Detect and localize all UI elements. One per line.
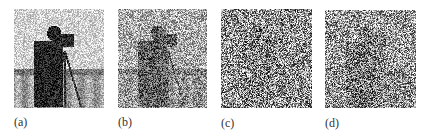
noisy-image-b <box>118 9 207 108</box>
noisy-image-a <box>14 9 104 108</box>
noisy-image-d <box>325 10 416 108</box>
panel-label-a: (a) <box>14 115 27 130</box>
panel-label-d: (d) <box>325 116 339 131</box>
noisy-image-c <box>221 9 312 108</box>
panel-label-c: (c) <box>221 116 234 131</box>
panel-label-b: (b) <box>118 115 132 130</box>
